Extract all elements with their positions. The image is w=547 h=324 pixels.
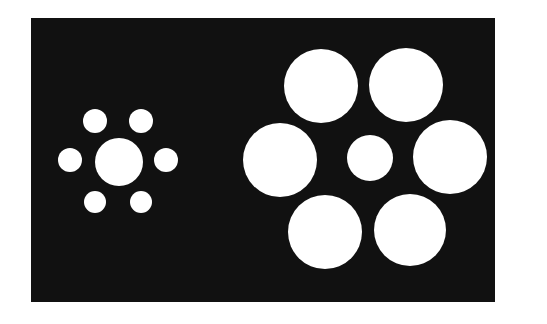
surround-circle: [154, 148, 178, 172]
center-circle: [95, 138, 143, 186]
surround-circle: [130, 191, 152, 213]
surround-circle: [243, 123, 317, 197]
ebbinghaus-illusion-figure: [0, 0, 547, 324]
surround-circle: [129, 109, 153, 133]
surround-circle: [413, 120, 487, 194]
surround-circle: [369, 48, 443, 122]
surround-circle: [288, 195, 362, 269]
surround-circle: [58, 148, 82, 172]
surround-circle: [84, 191, 106, 213]
surround-circle: [374, 194, 446, 266]
center-circle: [347, 135, 393, 181]
surround-circle: [284, 49, 358, 123]
surround-circle: [83, 109, 107, 133]
